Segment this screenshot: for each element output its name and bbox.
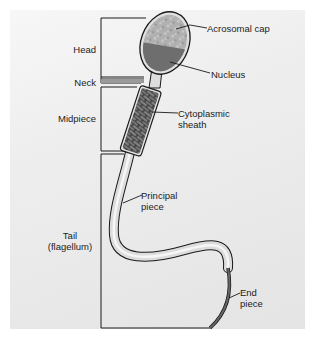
label-cytoplasmic-sheath: Cytoplasmic sheath [178, 108, 230, 130]
label-tail-line1: Tail [40, 230, 100, 241]
label-cytoplasmic-sheath-line2: sheath [178, 119, 230, 130]
label-head: Head [50, 44, 96, 55]
end-piece-shape [210, 268, 229, 328]
label-acrosomal-cap: Acrosomal cap [207, 23, 270, 34]
label-tail: Tail (flagellum) [40, 230, 100, 252]
midpiece-shape [120, 85, 162, 156]
label-end-piece-line2: piece [240, 298, 263, 309]
label-end-piece-line1: End [240, 287, 263, 298]
label-cytoplasmic-sheath-line1: Cytoplasmic [178, 108, 230, 119]
label-end-piece: End piece [240, 287, 263, 309]
sperm-diagram [0, 0, 315, 349]
label-principal-piece-line2: piece [141, 201, 177, 212]
neck-band [101, 79, 144, 83]
label-nucleus: Nucleus [211, 69, 245, 80]
label-principal-piece: Principal piece [141, 190, 177, 212]
leader-principal-piece [123, 195, 142, 203]
leader-cytoplasmic-sheath [152, 112, 178, 113]
label-tail-line2: (flagellum) [40, 241, 100, 252]
label-midpiece: Midpiece [40, 113, 96, 124]
label-principal-piece-line1: Principal [141, 190, 177, 201]
label-neck: Neck [50, 77, 96, 88]
leader-end-piece [229, 293, 240, 298]
